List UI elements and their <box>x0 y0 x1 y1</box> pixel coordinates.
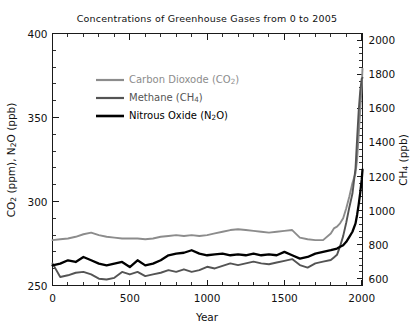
plot-canvas <box>0 0 415 328</box>
ylabel-left-n2o-sub: 2 <box>9 142 18 147</box>
x-tick-500: 500 <box>120 293 140 304</box>
legend-label-methane: Methane (CH4) <box>129 93 203 103</box>
legend-label-carbon-dioxide-main: Carbon Dioxode (CO <box>129 74 231 85</box>
y-right-tick-1400: 1400 <box>369 137 396 148</box>
y-axis-left-label: CO2 (ppm), N2O (ppb) <box>6 103 18 218</box>
series-line-co2 <box>53 69 363 240</box>
y-left-tick-300: 300 <box>27 196 47 207</box>
y-left-tick-350: 350 <box>27 112 47 123</box>
data-series-group <box>53 69 363 280</box>
series-line-ch4 <box>53 78 363 280</box>
x-tick-2000: 2000 <box>348 293 375 304</box>
ylabel-right-ch4-sub: 4 <box>401 166 410 171</box>
legend-label-methane-tail: ) <box>199 92 203 103</box>
ylabel-left-co2-sub: 2 <box>9 197 18 202</box>
ylabel-left-end: O (ppb) <box>5 103 17 143</box>
legend-line-samples <box>96 80 124 116</box>
y-right-tick-1200: 1200 <box>369 171 396 182</box>
x-tick-1000: 1000 <box>194 293 221 304</box>
legend-label-carbon-dioxide-tail: ) <box>235 74 239 85</box>
y-left-tick-400: 400 <box>27 28 47 39</box>
y-right-tick-1800: 1800 <box>369 69 396 80</box>
axes-frame <box>53 34 363 286</box>
ylabel-right-unit: (ppb) <box>397 134 409 166</box>
y-right-tick-800: 800 <box>369 239 389 250</box>
series-line-n2o <box>53 170 363 267</box>
y-right-tick-1000: 1000 <box>369 205 396 216</box>
y-right-tick-2000: 2000 <box>369 35 396 46</box>
x-tick-1500: 1500 <box>271 293 298 304</box>
y-left-tick-250: 250 <box>27 280 47 291</box>
y-right-tick-600: 600 <box>369 273 389 284</box>
axis-ticks <box>53 34 363 286</box>
x-axis-label: Year <box>196 312 218 323</box>
legend-label-nitrous-oxide-tail: O) <box>216 110 228 121</box>
ylabel-left-co2: CO <box>5 202 17 218</box>
legend-label-carbon-dioxide: Carbon Dioxode (CO2) <box>129 75 239 85</box>
y-axis-right-label: CH4 (ppb) <box>398 134 410 186</box>
legend-label-nitrous-oxide: Nitrous Oxide (N2O) <box>129 111 228 121</box>
greenhouse-gas-chart: Concentrations of Greenhouse Gases from … <box>0 0 415 328</box>
chart-title: Concentrations of Greenhouse Gases from … <box>77 14 337 24</box>
legend-label-methane-main: Methane (CH <box>129 92 194 103</box>
x-tick-0: 0 <box>49 293 56 304</box>
ylabel-left-mid: (ppm), N <box>5 147 17 197</box>
ylabel-right-ch4: CH <box>397 171 409 186</box>
legend-label-nitrous-oxide-main: Nitrous Oxide (N <box>129 110 212 121</box>
y-right-tick-1600: 1600 <box>369 103 396 114</box>
